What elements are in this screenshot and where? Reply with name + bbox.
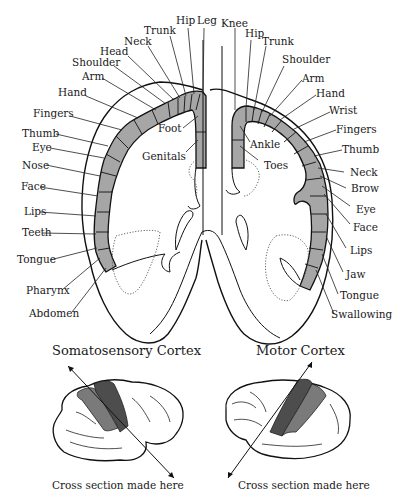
label-s-lips: Lips [24, 205, 46, 217]
right-dotted-boundary [265, 235, 308, 301]
left-ventricle [188, 168, 200, 209]
cortex-diagram: Hip Leg Trunk Neck Head Shoulder Arm Han… [0, 0, 395, 502]
somatosensory-strip [94, 91, 206, 272]
label-s-hip: Hip [176, 14, 196, 26]
coronal-section: Hip Leg Trunk Neck Head Shoulder Arm Han… [17, 14, 393, 344]
left-sulcus-lower [112, 252, 180, 272]
label-s-face: Face [21, 180, 46, 192]
label-s-arm: Arm [81, 70, 105, 82]
label-m-hand: Hand [316, 87, 345, 99]
right-dotted-upper [244, 160, 259, 196]
motor-note: Cross section made here [238, 479, 370, 491]
somatosensory-title: Somatosensory Cortex [52, 343, 202, 358]
label-s-teeth: Teeth [22, 226, 52, 238]
somatosensory-note: Cross section made here [52, 479, 184, 491]
label-s-pharynx: Pharynx [26, 284, 70, 296]
label-m-ankle: Ankle [249, 138, 280, 150]
motor-strip [232, 106, 328, 290]
label-m-wrist: Wrist [329, 104, 358, 116]
label-m-face: Face [353, 221, 378, 233]
right-sulcus-lower [280, 258, 300, 286]
label-m-lips: Lips [350, 244, 372, 256]
label-m-fingers: Fingers [336, 123, 377, 135]
label-m-swallowing: Swallowing [331, 308, 393, 320]
central-left-shape [175, 211, 192, 250]
label-m-toes: Toes [264, 159, 288, 171]
label-s-nose: Nose [22, 159, 49, 171]
label-s-eye: Eye [32, 141, 52, 153]
label-s-hand: Hand [58, 86, 87, 98]
right-ventricle [226, 168, 240, 194]
label-s-tongue: Tongue [17, 253, 56, 265]
somatosensory-lateral-view: Somatosensory Cortex Cross section made … [52, 343, 202, 491]
central-right-shape [236, 215, 248, 250]
label-m-knee: Knee [221, 17, 248, 29]
label-m-arm: Arm [301, 72, 325, 84]
somatosensory-leaders [40, 28, 204, 312]
left-dotted-boundary [112, 230, 160, 294]
label-s-thumb: Thumb [22, 127, 59, 139]
label-s-shoulder: Shoulder [72, 56, 121, 68]
label-m-tongue: Tongue [340, 289, 379, 301]
label-m-thumb: Thumb [342, 143, 379, 155]
label-m-trunk: Trunk [262, 35, 295, 47]
label-s-abdomen: Abdomen [28, 307, 80, 319]
label-s-leg: Leg [197, 14, 217, 26]
label-m-eye: Eye [356, 203, 376, 215]
motor-leaders [235, 28, 350, 314]
label-s-genitals: Genitals [142, 150, 186, 162]
motor-title: Motor Cortex [256, 343, 345, 358]
label-m-shoulder: Shoulder [282, 53, 331, 65]
motor-lateral-view: Motor Cortex Cross section made here [226, 343, 370, 491]
label-s-fingers: Fingers [33, 107, 74, 119]
label-m-jaw: Jaw [345, 268, 365, 280]
label-s-foot: Foot [158, 122, 182, 134]
label-m-brow: Brow [351, 182, 379, 194]
label-m-neck: Neck [350, 166, 378, 178]
